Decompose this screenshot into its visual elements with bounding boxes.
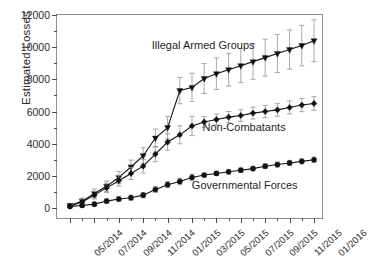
series-2	[67, 97, 317, 209]
data-marker	[238, 112, 244, 118]
data-marker	[238, 168, 243, 173]
data-marker	[262, 108, 268, 114]
data-marker	[311, 157, 316, 162]
y-axis-tick-label: 6000	[27, 106, 50, 118]
y-axis-tick-label: 10000	[21, 41, 50, 53]
data-marker	[140, 154, 146, 160]
data-marker	[275, 162, 280, 167]
series-label: Non-Combatants	[203, 121, 286, 133]
data-marker	[202, 172, 207, 177]
data-marker	[287, 104, 293, 110]
data-marker	[92, 202, 97, 207]
data-marker	[275, 107, 281, 113]
y-axis-tick-label: 12000	[21, 9, 50, 21]
data-marker	[250, 110, 256, 116]
data-marker	[226, 114, 232, 120]
y-axis-tick-label: 0	[44, 202, 50, 214]
data-marker	[226, 169, 231, 174]
data-marker	[299, 159, 304, 164]
y-axis-tick-label: 8000	[27, 73, 50, 85]
data-marker	[80, 203, 85, 208]
data-marker	[116, 196, 121, 201]
data-marker	[263, 164, 268, 169]
data-marker	[287, 160, 292, 165]
y-axis-tick-label: 4000	[27, 138, 50, 150]
data-marker	[165, 126, 171, 132]
data-marker	[177, 132, 183, 138]
data-marker	[128, 170, 134, 176]
data-marker	[141, 193, 146, 198]
series-label: Governmental Forces	[192, 179, 298, 191]
data-marker	[128, 195, 133, 200]
plot-area: 02000400060008000100001200005/201407/201…	[56, 14, 323, 219]
data-marker	[104, 198, 109, 203]
data-marker	[177, 89, 183, 95]
data-marker	[153, 187, 158, 192]
data-marker	[311, 100, 317, 106]
data-marker	[189, 123, 195, 129]
data-marker	[165, 182, 170, 187]
data-marker	[67, 204, 72, 209]
data-marker	[201, 77, 207, 83]
series-label: Illegal Armed Groups	[152, 39, 255, 51]
data-marker	[299, 102, 305, 108]
data-marker	[250, 166, 255, 171]
data-marker	[214, 171, 219, 176]
data-marker	[177, 179, 182, 184]
plot-inner: 02000400060008000100001200005/201407/201…	[57, 15, 322, 218]
y-axis-tick-label: 2000	[27, 170, 50, 182]
